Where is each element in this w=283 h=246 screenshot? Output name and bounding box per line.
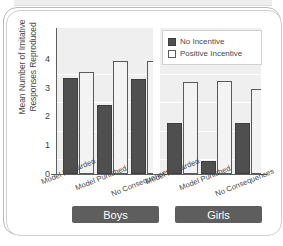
bar-boys-model-rewarded-no-incentive [63,78,78,174]
y-tick-3: 3 [36,83,50,93]
y-tick-1: 1 [36,140,50,150]
y-tick-4: 4 [36,54,50,64]
group-banner-girls: Girls [175,206,262,223]
bar-boys-model-punished-positive-incentive [113,61,128,174]
legend-label-no-incentive: No Incentive [180,37,224,46]
bar-girls-no-consequences-positive-incentive [251,89,261,174]
bar-chart: Mean Number of Imitative Responses Repro… [10,14,276,230]
bar-boys-no-consequences-no-incentive [131,79,146,174]
frame-top-edge [14,0,272,6]
legend-label-positive-incentive: Positive Incentive [180,49,242,58]
legend-item-positive-incentive[interactable]: Positive Incentive [168,48,257,59]
figure-root: Mean Number of Imitative Responses Repro… [0,0,283,246]
legend-swatch-no-incentive-icon [168,38,176,46]
legend-item-no-incentive[interactable]: No Incentive [168,36,257,47]
gridline-3 [160,102,261,103]
plot-panel-boys [57,28,153,174]
bar-girls-model-punished-positive-incentive [217,81,232,174]
legend-swatch-positive-incentive-icon [168,50,176,58]
y-tick-2: 2 [36,111,50,121]
chart-legend: No Incentive Positive Incentive [162,30,262,65]
group-banner-boys: Boys [72,206,159,223]
y-axis-line [56,28,57,175]
gridline-4 [57,74,153,75]
bar-boys-model-punished-no-incentive [97,105,112,174]
bar-girls-no-consequences-no-incentive [235,123,250,174]
gridline-4 [160,74,261,75]
bar-boys-no-consequences-positive-incentive [147,61,153,174]
